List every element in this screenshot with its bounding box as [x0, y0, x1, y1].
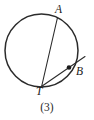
point-label-b: B: [76, 66, 83, 78]
point-b-dot: [67, 65, 72, 70]
point-label-t: T: [36, 86, 42, 98]
figure-caption: (3): [0, 101, 94, 113]
geometry-figure: A B T (3): [0, 0, 94, 120]
point-label-a: A: [55, 4, 62, 16]
circle-outline: [5, 14, 78, 87]
